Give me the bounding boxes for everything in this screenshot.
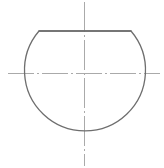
technical-drawing-svg: Truncated circle outline with center lin… bbox=[0, 0, 164, 168]
technical-drawing-canvas: Truncated circle outline with center lin… bbox=[0, 0, 164, 168]
